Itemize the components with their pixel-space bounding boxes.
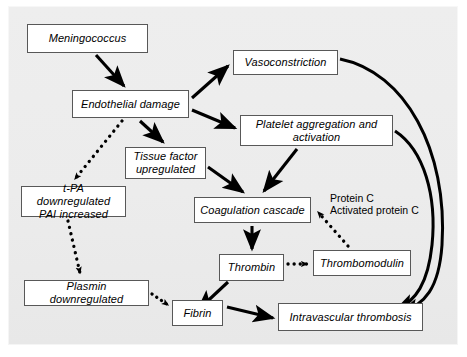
- node-vasoconstriction[interactable]: Vasoconstriction: [233, 50, 338, 75]
- edge-platelet-coagulation: [264, 149, 297, 191]
- edge-endothelial-tissuefactor: [140, 121, 163, 142]
- node-thrombin[interactable]: Thrombin: [219, 254, 284, 281]
- node-thrombomodulin[interactable]: Thrombomodulin: [313, 250, 411, 276]
- figure-panel: Meningococcus Endothelial damage Vasocon…: [8, 6, 458, 345]
- node-label: t-PA downregulated PAI increased: [26, 182, 121, 221]
- node-label: Vasoconstriction: [245, 56, 327, 69]
- node-label: Coagulation cascade: [200, 204, 305, 217]
- node-tissue-factor[interactable]: Tissue factor upregulated: [125, 147, 206, 179]
- node-meningococcus[interactable]: Meningococcus: [27, 24, 148, 53]
- edge-plasmin-fibrin: [152, 294, 168, 305]
- node-label: Plasmin downregulated: [29, 280, 144, 306]
- edge-fibrin-thrombosis: [227, 307, 273, 318]
- edge-tpa-plasmin: [68, 221, 80, 273]
- node-label: Thrombin: [228, 261, 275, 274]
- node-label: Platelet aggregation and activation: [256, 118, 378, 144]
- node-label: Fibrin: [183, 307, 211, 320]
- node-platelet-aggregation[interactable]: Platelet aggregation and activation: [240, 115, 393, 146]
- edge-thrombomodulin-coagulation: [318, 212, 348, 246]
- flowchart-figure: Meningococcus Endothelial damage Vasocon…: [0, 0, 467, 357]
- edge-tissuefactor-coagulation: [208, 167, 243, 192]
- edge-endothelial-vasoconstriction: [192, 66, 228, 98]
- edge-endothelial-tpa: [75, 121, 122, 179]
- node-label: Tissue factor upregulated: [133, 150, 197, 176]
- node-label: Intravascular thrombosis: [289, 311, 411, 324]
- node-fibrin[interactable]: Fibrin: [172, 300, 223, 326]
- node-endothelial-damage[interactable]: Endothelial damage: [72, 90, 189, 118]
- node-label: Thrombomodulin: [320, 257, 404, 270]
- edge-platelet-thrombosis: [395, 131, 433, 310]
- node-label: Endothelial damage: [81, 98, 180, 111]
- node-intravascular-thrombosis[interactable]: Intravascular thrombosis: [278, 303, 423, 331]
- node-tpa-downregulated[interactable]: t-PA downregulated PAI increased: [21, 186, 126, 217]
- node-label: Meningococcus: [49, 32, 127, 45]
- label-protein-c: Protein C Activated protein C: [330, 192, 419, 216]
- node-coagulation-cascade[interactable]: Coagulation cascade: [194, 197, 311, 223]
- edge-meningococcus-endothelial: [96, 55, 124, 86]
- node-plasmin-downregulated[interactable]: Plasmin downregulated: [24, 280, 149, 306]
- edge-endothelial-platelet: [192, 110, 235, 128]
